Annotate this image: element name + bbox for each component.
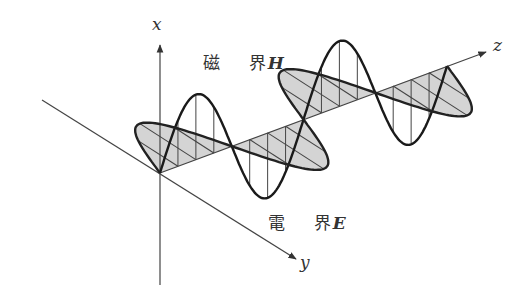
- z-axis-label: z: [493, 35, 502, 55]
- magnetic-field-symbol: H: [268, 53, 284, 73]
- electric-field-symbol: E: [333, 213, 346, 233]
- electric-field-label: 電 界E: [268, 209, 346, 234]
- magnetic-field-char-2: 界: [249, 53, 266, 73]
- electric-field-char-1: 電: [268, 213, 285, 233]
- x-axis-label: x: [152, 14, 162, 34]
- magnetic-field-char-1: 磁: [203, 53, 220, 73]
- electric-field-char-2: 界: [314, 213, 331, 233]
- em-wave-diagram: [0, 0, 532, 297]
- magnetic-field-label: 磁 界H: [203, 49, 284, 74]
- y-axis-label: y: [300, 252, 310, 272]
- y-axis: [42, 100, 296, 259]
